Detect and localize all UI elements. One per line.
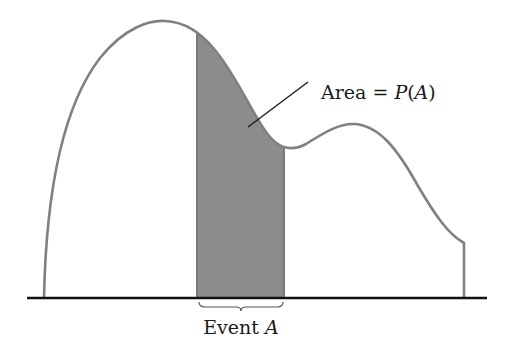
event-brace	[199, 302, 283, 311]
diagram-canvas: Area = P(A) Event A	[0, 0, 505, 358]
event-label: Event A	[203, 316, 279, 338]
area-pointer-line	[248, 82, 308, 127]
area-label: Area = P(A)	[320, 81, 436, 103]
density-diagram: Area = P(A) Event A	[0, 0, 505, 358]
